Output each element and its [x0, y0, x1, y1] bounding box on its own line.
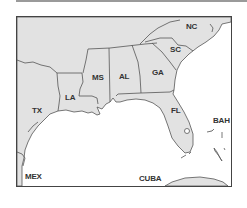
label-la: LA: [65, 94, 75, 102]
label-cuba: CUBA: [139, 175, 161, 183]
label-bah: BAH: [213, 117, 230, 125]
label-sc: SC: [170, 46, 181, 54]
cuba: [165, 177, 228, 186]
label-ms: MS: [92, 74, 104, 82]
label-mex: MEX: [25, 173, 42, 181]
label-fl: FL: [171, 107, 180, 115]
label-ga: GA: [152, 69, 164, 77]
label-nc: NC: [186, 23, 197, 31]
label-tx: TX: [32, 107, 42, 115]
lake-okeechobee: [185, 129, 190, 134]
bahamas: [207, 129, 225, 161]
label-al: AL: [119, 73, 129, 81]
land-mass: [17, 17, 231, 186]
